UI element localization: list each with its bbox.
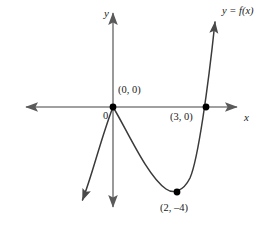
- point-marker-three-zero: [203, 104, 210, 111]
- plot-canvas: [0, 0, 274, 226]
- point-label-minimum: (2, –4): [160, 203, 188, 214]
- point-label-three-zero: (3, 0): [170, 112, 193, 123]
- graph-figure: y x y = f(x) (0, 0) 0 (3, 0) (2, –4): [0, 0, 274, 226]
- y-axis-label: y: [104, 8, 109, 19]
- x-axis-label: x: [244, 112, 249, 123]
- point-label-origin: (0, 0): [118, 85, 141, 96]
- origin-label: 0: [103, 111, 108, 122]
- point-marker-origin: [110, 104, 117, 111]
- point-marker-minimum: [174, 189, 181, 196]
- function-label: y = f(x): [222, 6, 254, 17]
